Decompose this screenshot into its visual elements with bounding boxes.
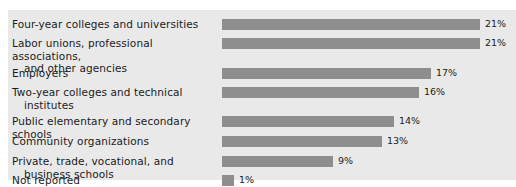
category-label-line1: Labor unions, professional associations, xyxy=(12,37,153,62)
bar-track: 16% xyxy=(222,87,516,99)
category-label: Not reported xyxy=(12,174,218,187)
bar xyxy=(222,116,394,127)
bar xyxy=(222,68,431,79)
bar xyxy=(222,87,419,98)
category-label-line1: Community organizations xyxy=(12,135,149,147)
category-label-line1: Not reported xyxy=(12,174,80,186)
bar-track: 13% xyxy=(222,136,516,148)
bar-track: 21% xyxy=(222,19,516,31)
bar xyxy=(222,38,480,49)
category-label: Community organizations xyxy=(12,135,218,148)
bar-track: 9% xyxy=(222,156,516,168)
category-label: Four-year colleges and universities xyxy=(12,18,218,31)
bar-value-label: 21% xyxy=(485,37,506,49)
bar xyxy=(222,136,382,147)
category-label-line1: Private, trade, vocational, and xyxy=(12,155,174,167)
category-label-line1: Two-year colleges and technical xyxy=(12,86,183,98)
bar-track: 17% xyxy=(222,68,516,80)
bar xyxy=(222,19,480,30)
bar xyxy=(222,175,234,186)
bar-value-label: 17% xyxy=(436,67,457,79)
category-label-line2: institutes xyxy=(12,99,218,112)
bar-track: 1% xyxy=(222,175,516,187)
bar-track: 21% xyxy=(222,38,516,50)
bar-value-label: 13% xyxy=(387,135,408,147)
bar xyxy=(222,156,333,167)
bar-value-label: 16% xyxy=(424,86,445,98)
category-label: Two-year colleges and technicalinstitute… xyxy=(12,86,218,111)
bar-value-label: 14% xyxy=(399,115,420,127)
category-label-line1: Employers xyxy=(12,67,68,79)
bar-track: 14% xyxy=(222,116,516,128)
chart-panel: Four-year colleges and universities21%La… xyxy=(8,10,516,180)
bar-value-label: 9% xyxy=(338,155,353,167)
horizontal-bar-chart: Four-year colleges and universities21%La… xyxy=(0,0,516,187)
bar-value-label: 21% xyxy=(485,18,506,30)
category-label-line1: Four-year colleges and universities xyxy=(12,18,198,30)
category-label: Employers xyxy=(12,67,218,80)
bar-value-label: 1% xyxy=(239,174,254,186)
